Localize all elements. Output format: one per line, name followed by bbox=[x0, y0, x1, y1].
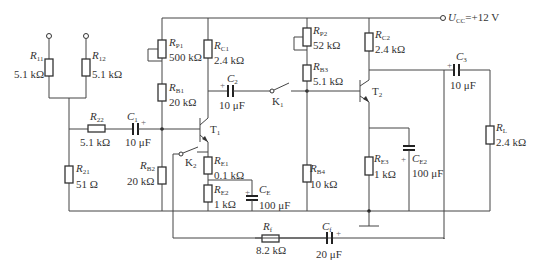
resistor-re1 bbox=[204, 157, 212, 174]
label-supply: UCC=+12 V bbox=[448, 12, 499, 25]
label-k1: K1 bbox=[272, 96, 283, 109]
value-rf: 8.2 kΩ bbox=[256, 245, 286, 256]
label-r21: R21 bbox=[76, 163, 90, 176]
value-rb3: 5.1 kΩ bbox=[313, 76, 343, 87]
value-r11: 5.1 kΩ bbox=[14, 69, 44, 80]
label-rl: RL bbox=[496, 122, 507, 135]
value-c2: 10 μF bbox=[219, 100, 245, 111]
label-c3: C3 bbox=[456, 51, 467, 64]
potentiometer-rp2 bbox=[303, 28, 311, 46]
value-re3: 1 kΩ bbox=[374, 169, 396, 180]
value-re1: 0.1 kΩ bbox=[214, 170, 244, 181]
value-ce1: 100 μF bbox=[259, 200, 290, 211]
label-ce2: CE2 bbox=[412, 153, 427, 166]
circuit-diagram: UCC=+12 V R11 5.1 kΩ R12 5.1 kΩ R22 5.1 … bbox=[0, 0, 533, 274]
value-rb4: 10 kΩ bbox=[310, 179, 337, 190]
value-rp1: 500 kΩ bbox=[169, 52, 202, 63]
label-rp2: RP2 bbox=[313, 25, 327, 38]
resistor-rb1 bbox=[158, 84, 166, 101]
label-rc1: RC1 bbox=[214, 40, 229, 53]
label-re1: RE1 bbox=[214, 155, 229, 168]
potentiometer-rp1 bbox=[158, 40, 166, 58]
label-r11: R11 bbox=[30, 50, 43, 63]
label-cf: Cf bbox=[322, 221, 332, 234]
value-rp2: 52 kΩ bbox=[313, 40, 340, 51]
value-r21: 51 Ω bbox=[76, 179, 98, 190]
label-t1: T1 bbox=[210, 124, 220, 137]
value-rc1: 2.4 kΩ bbox=[214, 55, 244, 66]
label-rb1: RB1 bbox=[169, 82, 184, 95]
value-c1: 10 μF bbox=[125, 137, 151, 148]
value-cf: 20 μF bbox=[316, 249, 342, 260]
value-re2: 1 kΩ bbox=[214, 199, 236, 210]
resistor-r21 bbox=[65, 166, 73, 183]
resistor-re2 bbox=[204, 185, 212, 202]
label-rb2: RB2 bbox=[140, 160, 155, 173]
resistor-r22 bbox=[88, 125, 105, 132]
value-r22: 5.1 kΩ bbox=[80, 137, 110, 148]
label-re2: RE2 bbox=[214, 184, 229, 197]
resistor-rc1 bbox=[204, 40, 212, 58]
label-c1: C1 bbox=[127, 111, 138, 124]
value-rl: 2.4 kΩ bbox=[496, 137, 526, 148]
value-c3: 10 μF bbox=[450, 80, 476, 91]
resistor-r11 bbox=[45, 59, 53, 76]
value-r12: 5.1 kΩ bbox=[92, 69, 122, 80]
resistor-rb2 bbox=[158, 167, 166, 184]
label-rb3: RB3 bbox=[313, 61, 328, 74]
resistor-rb3 bbox=[303, 65, 311, 81]
label-c2: C2 bbox=[227, 73, 238, 86]
label-t2: T2 bbox=[372, 86, 382, 99]
label-rc2: RC2 bbox=[375, 29, 390, 42]
label-r22: R22 bbox=[90, 111, 104, 124]
label-re3: RE3 bbox=[374, 153, 389, 166]
label-ce1: CE bbox=[259, 184, 271, 197]
label-rf: Rf bbox=[263, 221, 272, 234]
value-ce2: 100 μF bbox=[412, 168, 443, 179]
value-rb1: 20 kΩ bbox=[169, 97, 196, 108]
resistor-r12 bbox=[82, 59, 90, 76]
resistor-rl bbox=[486, 126, 494, 144]
label-rb4: RB4 bbox=[310, 163, 325, 176]
value-rc2: 2.4 kΩ bbox=[375, 44, 405, 55]
resistor-re3 bbox=[365, 157, 373, 175]
value-rb2: 20 kΩ bbox=[127, 176, 154, 187]
label-r12: R12 bbox=[92, 50, 106, 63]
label-k2: K2 bbox=[185, 157, 196, 170]
label-rp1: RP1 bbox=[169, 37, 183, 50]
resistor-rc2 bbox=[365, 33, 373, 51]
